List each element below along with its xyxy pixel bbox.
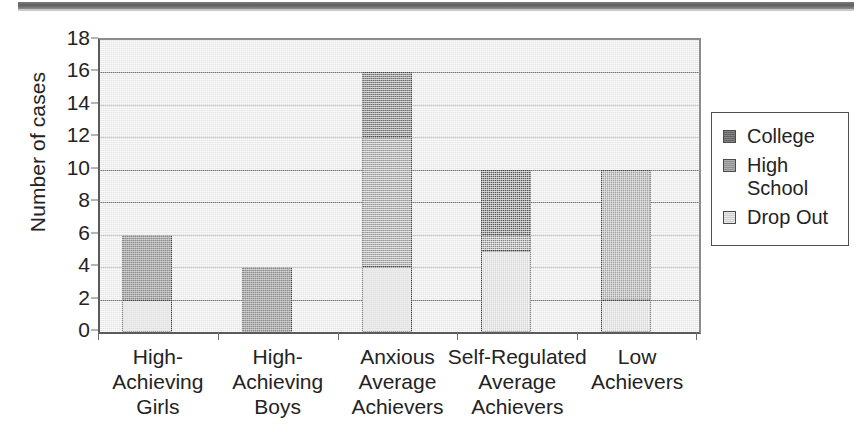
x-axis-tick-mark [457,332,458,340]
bar-segment [242,267,292,332]
y-axis-tick-mark [91,167,98,168]
x-axis-ticks [98,332,697,342]
bar-texture [602,301,650,331]
x-axis-tick-mark [218,332,219,340]
y-axis-tick-label: 2 [78,286,90,310]
x-axis-label-line: Achievers [447,394,587,419]
legend-swatch-icon [723,159,736,172]
plot-area [98,38,701,334]
x-axis-labels: High-AchievingGirlsHigh-AchievingBoysAnx… [98,344,697,430]
bar-texture [123,236,171,299]
legend-item[interactable]: HighSchool [723,154,848,200]
bar-texture [482,171,530,234]
y-axis-tick-label: 0 [78,318,90,342]
y-axis-tick-label: 18 [67,26,90,50]
bar-texture [363,73,411,136]
y-axis-tick-label: 12 [67,123,90,147]
bar-texture [363,268,411,331]
x-axis-label-line: Achievers [567,369,707,394]
y-axis-tick-mark [91,265,98,266]
page-edge-artifact [18,2,854,9]
stacked-bar [242,267,292,332]
legend-label-line: School [747,177,808,200]
x-axis-tick-mark [696,332,697,340]
bar-segment [481,251,531,332]
stacked-bar [481,170,531,332]
y-axis-tick-label: 4 [78,253,90,277]
y-axis-tick-mark [91,102,98,103]
x-axis-tick-mark [577,332,578,340]
legend-label-line: High [747,154,808,177]
legend-label-line: Drop Out [747,206,828,229]
y-axis-tick-label: 8 [78,188,90,212]
y-axis-tick-mark [91,135,98,136]
x-axis-tick-mark [338,332,339,340]
bar-segment [481,170,531,235]
bar-segment [362,137,412,267]
y-axis-tick-label: 6 [78,221,90,245]
y-axis-tick-mark [91,200,98,201]
legend-item-label: Drop Out [747,206,828,229]
legend-swatch-texture [724,212,735,223]
stacked-bar [362,72,412,332]
bar-segment [601,300,651,332]
chart-legend: CollegeHighSchoolDrop Out [711,112,849,246]
bar-segment [362,267,412,332]
x-axis-label-line: Low [567,344,707,369]
legend-swatch-icon [723,130,736,143]
legend-item-label: HighSchool [747,154,808,200]
bar-segment [122,300,172,332]
y-axis-tick-label: 14 [67,91,90,115]
y-axis-title: Number of cases [26,22,50,282]
bar-texture [123,301,171,331]
bar-segment [122,235,172,300]
y-axis-tick-mark [91,38,98,39]
legend-item[interactable]: College [723,125,848,148]
stacked-bar [601,170,651,332]
bar-texture [602,171,650,299]
chart-figure: Number of cases 024681012141618 High-Ach… [0,0,866,432]
y-axis-tick-mark [91,297,98,298]
y-axis-ticks: 024681012141618 [52,38,98,330]
y-axis-tick-label: 16 [67,58,90,82]
bar-texture [363,138,411,266]
y-axis-tick-mark [91,70,98,71]
y-axis-tick-label: 10 [67,156,90,180]
bar-texture [482,252,530,331]
bar-texture [243,268,291,331]
bar-segment [601,170,651,300]
x-axis-tick-mark [98,332,99,340]
legend-swatch-icon [723,211,736,224]
legend-swatch-texture [724,131,735,142]
legend-item[interactable]: Drop Out [723,206,848,229]
legend-swatch-texture [724,160,735,171]
y-axis-tick-mark [91,330,98,331]
bar-segment [481,235,531,251]
x-axis-category-label: LowAchievers [567,344,707,394]
bar-segment [362,72,412,137]
legend-label-line: College [747,125,815,148]
bar-texture [482,236,530,250]
legend-item-label: College [747,125,815,148]
y-axis-tick-mark [91,232,98,233]
stacked-bar [122,235,172,332]
